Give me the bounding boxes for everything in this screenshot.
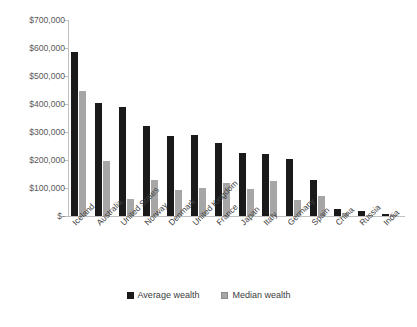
bar-group [93,20,117,216]
bar-group [380,20,404,216]
y-axis-tick-label: $- [5,212,65,221]
y-axis-tick-label: $300,000 [5,128,65,137]
y-axis-tick-label: $700,000 [5,16,65,25]
bar-group [260,20,284,216]
black-square-icon [127,292,134,299]
gray-square-icon [221,292,228,299]
bar-group [165,20,189,216]
legend-label-median-wealth: Median wealth [232,291,290,300]
y-axis-tick-label: $200,000 [5,156,65,165]
bar-average[interactable] [71,52,78,216]
bar-median[interactable] [79,91,86,216]
legend-item-median-wealth[interactable]: Median wealth [221,291,290,300]
bar-group [332,20,356,216]
bar-group [237,20,261,216]
bar-group [284,20,308,216]
bar-group [69,20,93,216]
y-axis-tick-label: $100,000 [5,184,65,193]
y-axis-tick-label: $500,000 [5,72,65,81]
bar-group [117,20,141,216]
x-axis-labels: IcelandAustraliaUnited StatesNorwayDenma… [69,217,409,283]
legend-item-average-wealth[interactable]: Average wealth [127,291,200,300]
bar-average[interactable] [262,154,269,216]
bar-average[interactable] [95,103,102,216]
y-axis-tick-label: $600,000 [5,44,65,53]
bar-group [308,20,332,216]
bar-group [189,20,213,216]
y-axis-tick-label: $400,000 [5,100,65,109]
legend-label-average-wealth: Average wealth [138,291,200,300]
bar-average[interactable] [167,136,174,216]
chart-legend: Average wealth Median wealth [0,291,417,300]
wealth-bar-chart: $700,000$600,000$500,000$400,000$300,000… [0,0,417,327]
bar-group [356,20,380,216]
bar-average[interactable] [286,159,293,216]
